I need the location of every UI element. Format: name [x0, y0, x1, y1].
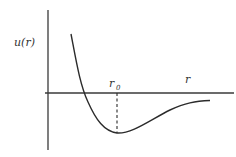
potential-energy-diagram: u(r) r r 0 — [0, 0, 236, 157]
y-axis-label: u(r) — [14, 36, 35, 49]
x-axis-label: r — [185, 73, 191, 86]
equilibrium-label: r — [109, 77, 115, 90]
equilibrium-label-subscript: 0 — [116, 84, 121, 92]
